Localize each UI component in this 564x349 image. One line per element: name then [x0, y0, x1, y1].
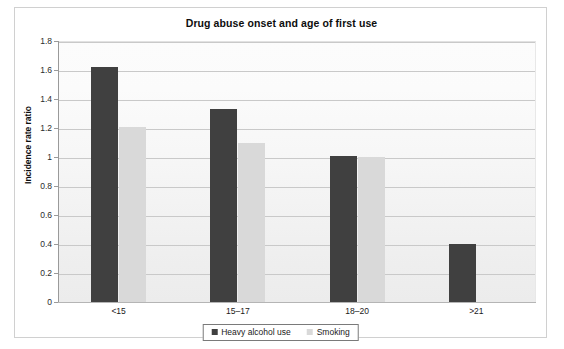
y-axis-tick-label: 1.2	[18, 123, 52, 133]
legend-swatch-icon	[307, 329, 313, 335]
y-axis-tick-mark	[54, 302, 58, 303]
y-axis-tick-mark	[54, 157, 58, 158]
y-axis-tick-label: 0.2	[18, 268, 52, 278]
legend-item[interactable]: Heavy alcohol use	[211, 327, 290, 337]
legend-label: Smoking	[317, 327, 350, 337]
x-axis-category-label: <15	[59, 306, 178, 316]
y-axis-tick-label: 0.6	[18, 210, 52, 220]
bar-smoking	[119, 127, 146, 302]
legend-label: Heavy alcohol use	[221, 327, 290, 337]
gridline	[59, 71, 535, 72]
x-axis-category-label: 15–17	[178, 306, 297, 316]
x-axis-category-label: 18–20	[298, 306, 417, 316]
y-axis-tick-label: 0.8	[18, 181, 52, 191]
x-axis-category-label: >21	[417, 306, 536, 316]
y-axis-tick-label: 0.4	[18, 239, 52, 249]
plot-area	[59, 41, 536, 302]
chart-figure: Drug abuse onset and age of first use In…	[14, 7, 547, 338]
y-axis-tick-mark	[54, 273, 58, 274]
y-axis-tick-mark	[54, 99, 58, 100]
bar-heavy-alcohol-use	[210, 109, 237, 302]
y-axis-tick-label: 1	[18, 152, 52, 162]
y-axis-tick-mark	[54, 244, 58, 245]
x-axis-line	[58, 302, 536, 303]
gridline	[59, 42, 535, 43]
y-axis-tick-label: 0	[18, 297, 52, 307]
bar-heavy-alcohol-use	[91, 67, 118, 302]
legend-swatch-icon	[211, 329, 217, 335]
y-axis-tick-labels: 1.81.61.41.210.80.60.40.20	[15, 41, 52, 302]
bar-heavy-alcohol-use	[449, 244, 476, 302]
bar-smoking	[238, 143, 265, 303]
y-axis-tick-mark	[54, 128, 58, 129]
y-axis-tick-mark	[54, 70, 58, 71]
y-axis-tick-mark	[54, 186, 58, 187]
y-axis-tick-mark	[54, 41, 58, 42]
chart-title: Drug abuse onset and age of first use	[15, 17, 548, 29]
legend-item[interactable]: Smoking	[307, 327, 350, 337]
plot-wrapper	[59, 41, 536, 302]
chart-legend: Heavy alcohol useSmoking	[202, 324, 359, 341]
y-axis-tick-label: 1.4	[18, 94, 52, 104]
y-axis-tick-label: 1.8	[18, 36, 52, 46]
gridline	[59, 100, 535, 101]
y-axis-tick-label: 1.6	[18, 65, 52, 75]
x-axis-category-labels: <1515–1718–20>21	[59, 306, 536, 322]
bar-smoking	[358, 157, 385, 302]
y-axis-tick-mark	[54, 215, 58, 216]
bar-heavy-alcohol-use	[330, 156, 357, 302]
